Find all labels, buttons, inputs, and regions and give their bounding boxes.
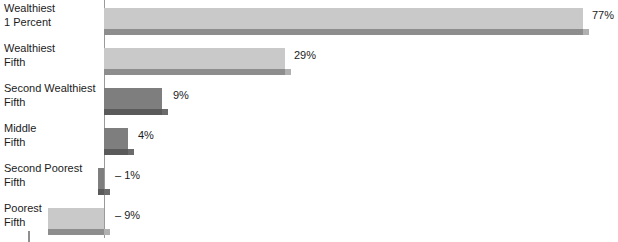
chart-row: Poorest Fifth – 9%	[0, 200, 618, 240]
bar-face	[104, 8, 583, 29]
category-label-line1: Wealthiest	[4, 42, 55, 54]
bar	[48, 208, 104, 229]
bar-shadow	[104, 109, 162, 115]
bar-shadow	[104, 29, 583, 35]
bar-face	[104, 128, 128, 149]
category-label-line2: Fifth	[4, 56, 102, 70]
bar-face	[104, 88, 162, 109]
category-label-line2: 1 Percent	[4, 16, 102, 30]
bar-cap	[162, 109, 168, 115]
bar-face	[48, 208, 104, 229]
category-label-line2: Fifth	[4, 136, 102, 150]
bar-cap	[583, 29, 589, 35]
bar	[104, 48, 285, 69]
value-label: 4%	[138, 129, 154, 141]
bar-cap	[104, 189, 110, 195]
value-label: 9%	[173, 89, 189, 101]
bar-shadow	[48, 229, 104, 235]
bar	[104, 8, 583, 29]
category-label: Second Poorest Fifth	[4, 162, 102, 189]
chart-row: Wealthiest 1 Percent 77%	[0, 0, 618, 40]
chart-row: Second Poorest Fifth – 1%	[0, 160, 618, 200]
category-label-line1: Middle	[4, 122, 36, 134]
bar	[98, 168, 104, 189]
category-label: Middle Fifth	[4, 122, 102, 149]
value-label: – 9%	[115, 209, 140, 221]
bar-face	[98, 168, 104, 189]
bar-shadow	[104, 149, 128, 155]
bar-shadow	[104, 69, 285, 75]
category-label-line2: Fifth	[4, 176, 102, 190]
bar	[104, 128, 128, 149]
category-label-line1: Wealthiest	[4, 2, 55, 14]
bar-cap	[104, 229, 110, 235]
bar-cap	[285, 69, 291, 75]
value-label: 29%	[294, 49, 316, 61]
bar	[104, 88, 162, 109]
chart-row: Second Wealthiest Fifth 9%	[0, 80, 618, 120]
value-label: 77%	[592, 9, 614, 21]
category-label-line1: Second Poorest	[4, 162, 82, 174]
bar-chart: Wealthiest 1 Percent 77% Wealthiest Fift…	[0, 0, 618, 242]
category-label-line1: Poorest	[4, 202, 42, 214]
chart-row: Middle Fifth 4%	[0, 120, 618, 160]
bar-cap	[128, 149, 134, 155]
category-label: Wealthiest Fifth	[4, 42, 102, 69]
category-label-line2: Fifth	[4, 96, 102, 110]
bar-face	[104, 48, 285, 69]
value-label: – 1%	[115, 169, 140, 181]
category-label: Wealthiest 1 Percent	[4, 2, 102, 29]
chart-row: Wealthiest Fifth 29%	[0, 40, 618, 80]
category-label: Second Wealthiest Fifth	[4, 82, 102, 109]
category-label-line1: Second Wealthiest	[4, 82, 96, 94]
